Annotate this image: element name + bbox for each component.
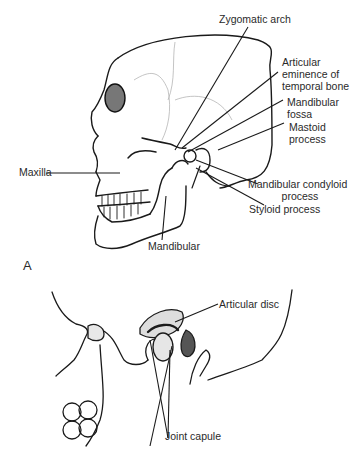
label-mandibular-fossa-line1: Mandibular (287, 96, 339, 108)
tmj-anatomy-figure: Zygomatic arch Articular eminence of tem… (0, 0, 360, 449)
label-condyloid-line2: process (248, 190, 352, 202)
label-mastoid-line2: process (289, 133, 326, 145)
label-condyloid-line1: Mandibular condyloid (248, 178, 347, 190)
label-mandibular: Mandibular (148, 240, 200, 252)
label-articular-eminence-line2: eminence of (282, 68, 339, 80)
label-mastoid-line1: Mastoid (289, 121, 326, 133)
label-articular-disc: Articular disc (219, 298, 279, 310)
label-zygomatic-arch: Zygomatic arch (219, 13, 291, 25)
label-articular-eminence-line3: temporal bone (282, 80, 349, 92)
label-articular-eminence-line1: Articular (282, 56, 321, 68)
label-mandibular-fossa-line2: fossa (287, 108, 312, 120)
label-maxilla: Maxilla (19, 166, 52, 178)
panel-label-a: A (23, 258, 32, 273)
label-styloid-process: Styloid process (249, 203, 320, 215)
label-joint-capsule: Joint capule (165, 430, 221, 442)
